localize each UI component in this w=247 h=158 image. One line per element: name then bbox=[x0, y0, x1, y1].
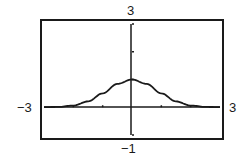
bell-curve-line bbox=[44, 80, 220, 108]
xmin-label: −3 bbox=[17, 101, 32, 114]
ymax-label: 3 bbox=[127, 4, 134, 17]
ymin-label: −1 bbox=[121, 142, 136, 155]
graph-window bbox=[0, 0, 247, 158]
xmax-label: 3 bbox=[229, 101, 236, 114]
